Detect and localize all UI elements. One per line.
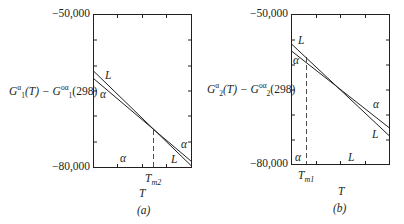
curve-label-alpha-a: α [100,88,106,100]
tm-label-b: Tm1 [298,169,314,184]
curve-label-L-a: L [105,69,111,81]
curve-label-L-b: L [298,34,304,46]
curve-label-L-right-b: L [372,128,378,140]
curve-label-alpha-right-b: α [373,98,379,110]
tm-label-a: Tm2 [145,172,161,187]
region-label-alpha-b: α [295,151,301,163]
caption-a: (a) [137,204,150,216]
x-axis-label-b: T [338,185,344,197]
curve-L-a [94,71,192,166]
caption-b: (b) [333,202,346,214]
y-bottom-label-a: −80,000 [52,160,90,172]
y-top-label-a: −50,000 [52,7,90,19]
curve-label-alpha-right-a: α [181,138,187,150]
y-bottom-label-b: −80,000 [250,157,288,169]
y-axis-label-b: Gα2(T) − Goα2(298) [207,83,295,95]
x-axis-label-a: T [139,187,145,199]
plot-a [0,0,202,224]
region-label-L-a: L [171,153,177,165]
curve-label-alpha-b: α [293,54,299,66]
panel-a: −50,000 −80,000 Gα1(T) − Goα1(298) L α α… [0,0,202,224]
panel-b: −50,000 −80,000 Gα2(T) − Goα2(298) L α α… [198,0,400,224]
y-axis-label-a: Gα1(T) − Goα1(298) [9,85,97,97]
curve-alpha-a [94,79,192,162]
region-label-L-b: L [348,151,354,163]
region-label-alpha-a: α [120,152,126,164]
y-top-label-b: −50,000 [250,7,288,19]
